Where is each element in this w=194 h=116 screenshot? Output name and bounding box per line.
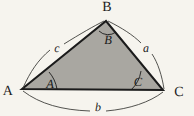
angle-label-a: A	[46, 78, 54, 91]
angle-label-c: C	[134, 76, 142, 89]
vertex-label-a: A	[3, 85, 13, 99]
triangle-figure: A B C A B C a b c	[0, 0, 194, 116]
angle-label-b: B	[104, 34, 112, 47]
side-label-c: c	[54, 42, 59, 54]
side-label-a: a	[143, 42, 149, 54]
vertex-label-c: C	[174, 86, 184, 100]
side-b-arc-right	[106, 92, 163, 111]
vertex-label-b: B	[102, 1, 112, 15]
triangle-diagram-canvas	[0, 0, 194, 116]
side-b-arc-left	[23, 91, 90, 111]
side-label-b: b	[95, 101, 101, 113]
